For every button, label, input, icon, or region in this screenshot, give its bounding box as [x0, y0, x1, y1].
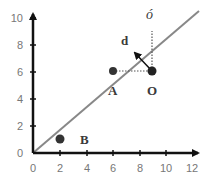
- x-tick-labels: 0 2 4 6 8 10 12: [30, 162, 198, 174]
- y-tick-labels: 0 2 4 6 8 10: [11, 12, 23, 159]
- x-tick-label: 2: [57, 162, 63, 174]
- point-b-label: B: [80, 132, 89, 147]
- y-tick-label: 0: [17, 147, 23, 159]
- point-a-label: A: [108, 83, 118, 98]
- diagram-canvas: 0 2 4 6 8 10 12 0 2 4 6 8 10 A O B ó d: [0, 0, 208, 183]
- x-tick-label: 4: [84, 162, 90, 174]
- y-tick-label: 2: [17, 120, 23, 132]
- y-tick-label: 6: [17, 66, 23, 78]
- x-tick-label: 12: [186, 162, 198, 174]
- x-tick-label: 0: [30, 162, 36, 174]
- o-prime-label: ó: [146, 7, 153, 22]
- point-b: [56, 135, 65, 144]
- point-o: [148, 67, 157, 76]
- point-o-label: O: [147, 83, 157, 98]
- y-tick-label: 10: [11, 12, 23, 24]
- x-tick-label: 8: [137, 162, 143, 174]
- x-tick-label: 10: [160, 162, 172, 174]
- diagonal-line: [33, 11, 199, 153]
- point-a: [109, 67, 117, 75]
- y-tick-label: 8: [17, 39, 23, 51]
- x-tick-label: 6: [110, 162, 116, 174]
- y-tick-label: 4: [17, 93, 23, 105]
- distance-label: d: [121, 33, 129, 48]
